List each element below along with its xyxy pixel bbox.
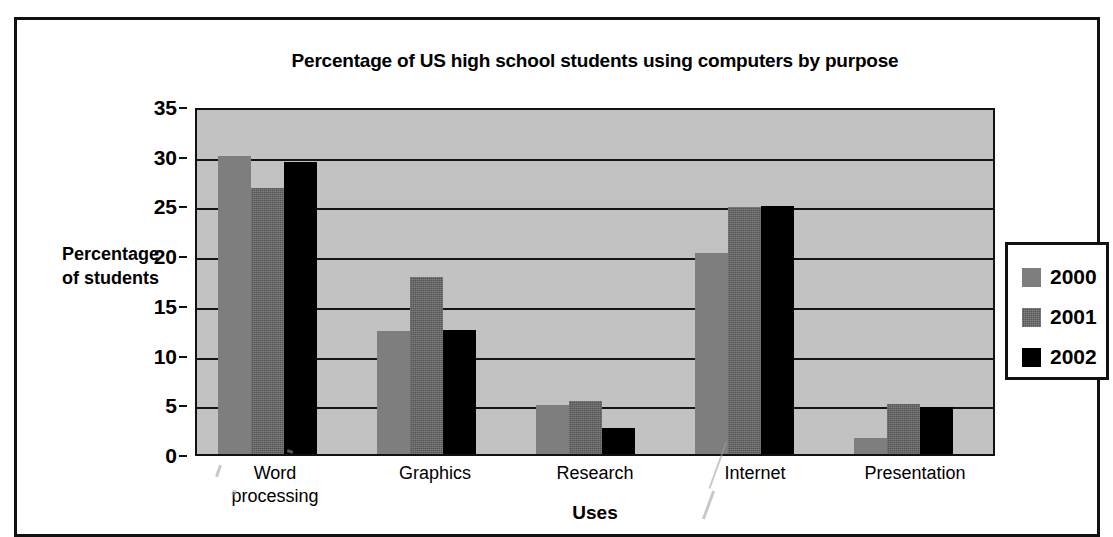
bar[interactable]	[443, 330, 476, 454]
bar-group	[218, 110, 336, 454]
y-tick-label: 5	[165, 394, 177, 418]
x-axis-label-line: Word	[200, 462, 350, 485]
legend-item[interactable]: 2002	[1022, 337, 1106, 377]
x-axis-label-line: Graphics	[360, 462, 510, 485]
bar-groups	[197, 110, 993, 454]
x-axis-labels: WordprocessingGraphicsResearchInternetPr…	[195, 462, 995, 507]
y-tick-mark	[179, 157, 187, 159]
legend-label: 2002	[1050, 345, 1097, 369]
bar[interactable]	[887, 404, 920, 454]
plot-area	[195, 108, 995, 456]
x-axis-label: Internet	[680, 462, 830, 507]
y-tick-label: 15	[154, 295, 177, 319]
x-axis-label: Wordprocessing	[200, 462, 350, 507]
bar[interactable]	[761, 206, 794, 454]
legend-swatch	[1022, 308, 1041, 327]
bar[interactable]	[728, 207, 761, 454]
bar-group	[854, 110, 972, 454]
bar[interactable]	[410, 277, 443, 454]
y-tick-label: 25	[154, 195, 177, 219]
bar-group	[536, 110, 654, 454]
legend-label: 2001	[1050, 305, 1097, 329]
y-tick-mark	[179, 306, 187, 308]
y-tick-mark	[179, 356, 187, 358]
legend: 200020012002	[1005, 242, 1109, 380]
bar[interactable]	[695, 253, 728, 454]
bar[interactable]	[251, 188, 284, 454]
legend-item[interactable]: 2001	[1022, 297, 1106, 337]
bar[interactable]	[602, 428, 635, 454]
y-tick-label: 10	[154, 345, 177, 369]
bar[interactable]	[854, 438, 887, 454]
x-axis-title: Uses	[195, 502, 995, 524]
y-axis-ticks: 05101520253035	[137, 108, 187, 456]
x-axis-label-line: Internet	[680, 462, 830, 485]
x-axis-label: Presentation	[840, 462, 990, 507]
chart-frame: Percentage of US high school students us…	[14, 17, 1100, 537]
y-tick-mark	[179, 256, 187, 258]
y-tick-label: 30	[154, 146, 177, 170]
y-tick-mark	[179, 206, 187, 208]
y-tick-label: 20	[154, 245, 177, 269]
legend-swatch	[1022, 268, 1041, 287]
bar[interactable]	[218, 156, 251, 454]
y-tick-mark	[179, 107, 187, 109]
x-axis-label-line: Research	[520, 462, 670, 485]
bar-group	[377, 110, 495, 454]
bar[interactable]	[377, 331, 410, 454]
legend-swatch	[1022, 348, 1041, 367]
y-tick-label: 0	[165, 444, 177, 468]
bar[interactable]	[284, 162, 317, 454]
legend-label: 2000	[1050, 265, 1097, 289]
bar[interactable]	[569, 401, 602, 454]
legend-item[interactable]: 2000	[1022, 257, 1106, 297]
bar-group	[695, 110, 813, 454]
x-axis-label: Research	[520, 462, 670, 507]
x-axis-label: Graphics	[360, 462, 510, 507]
x-axis-label-line: Presentation	[840, 462, 990, 485]
chart-title: Percentage of US high school students us…	[195, 50, 995, 72]
bar[interactable]	[920, 407, 953, 454]
y-tick-mark	[179, 455, 187, 457]
y-tick-label: 35	[154, 96, 177, 120]
bar[interactable]	[536, 405, 569, 454]
y-tick-mark	[179, 405, 187, 407]
